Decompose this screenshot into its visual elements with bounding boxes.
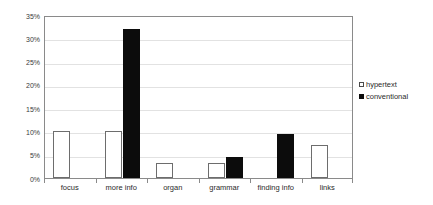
bar-conventional [277,134,294,178]
bar-hypertext [156,163,173,178]
y-axis-tick-label: 5% [14,152,40,159]
y-axis-tick-label: 30% [14,36,40,43]
bar-conventional [123,29,140,178]
bar-group [200,17,252,178]
bar-group [97,17,149,178]
x-axis-tick-label: finding info [250,183,302,192]
plot-area [44,16,353,179]
legend-item-conventional: conventional [359,91,429,102]
y-axis-tick-label: 25% [14,59,40,66]
legend-swatch-icon [359,94,364,99]
bar-group [251,17,303,178]
bar-group [45,17,97,178]
legend-swatch-icon [359,82,364,87]
legend-item-hypertext: hypertext [359,79,429,90]
x-axis-tick-label: more info [96,183,148,192]
legend-item-label: conventional [366,93,408,101]
bar-hypertext [208,163,225,178]
bars-layer [45,17,352,178]
y-axis-tick-label: 35% [14,13,40,20]
y-axis-tick-label: 0% [14,176,40,183]
x-axis-tick-label: grammar [199,183,251,192]
y-axis-tick-label: 10% [14,129,40,136]
x-axis-tick-label: organ [147,183,199,192]
bar-hypertext [311,145,328,178]
bar-chart: 0%5%10%15%20%25%30%35% focusmore infoorg… [0,0,433,205]
y-axis-tick-label: 20% [14,82,40,89]
bar-conventional [226,157,243,178]
bar-group [148,17,200,178]
bar-hypertext [105,131,122,178]
x-axis-tick-label: links [302,183,354,192]
bar-group [303,17,355,178]
x-axis-tick-label: focus [44,183,96,192]
y-axis-tick-label: 15% [14,106,40,113]
legend-item-label: hypertext [366,81,397,89]
y-axis: 0%5%10%15%20%25%30%35% [14,0,40,205]
x-axis: focusmore infoorgangrammarfinding infoli… [44,183,353,197]
bar-hypertext [53,131,70,178]
legend: hypertextconventional [359,79,429,103]
